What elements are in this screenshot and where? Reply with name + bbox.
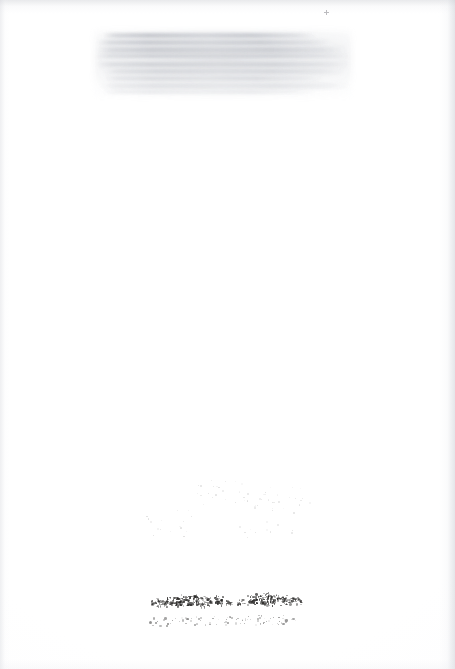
scan-edge-shadow-top bbox=[0, 0, 455, 14]
scan-edge-shadow-left bbox=[0, 0, 10, 669]
registration-speck-icon bbox=[324, 10, 329, 15]
scan-edge-shadow-bottom bbox=[0, 659, 455, 669]
scanned-page bbox=[0, 0, 455, 669]
scan-edge-shadow-right bbox=[439, 0, 455, 669]
paper-background bbox=[0, 0, 455, 669]
